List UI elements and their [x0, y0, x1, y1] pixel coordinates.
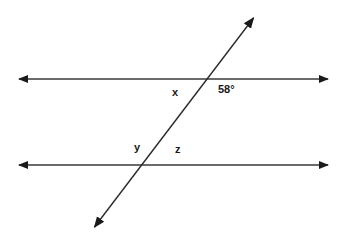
angle-label-z: z — [175, 144, 181, 155]
geometry-diagram — [0, 0, 346, 241]
angle-label-58-degrees: 58° — [218, 84, 235, 95]
angle-label-y: y — [134, 142, 140, 153]
transversal-line — [95, 18, 254, 227]
angle-label-x: x — [172, 87, 178, 98]
